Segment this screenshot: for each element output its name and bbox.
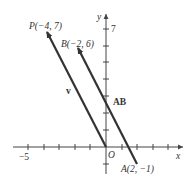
x-axis	[13, 144, 183, 150]
vector-ab-label: AB	[113, 97, 127, 107]
point-p-label: P(−4, 7)	[28, 21, 62, 32]
y-tick-label-7: 7	[111, 24, 116, 34]
coordinate-diagram: P(−4, 7) B(−2, 6) A(2, −1) O v AB x y −5…	[0, 0, 194, 182]
origin-label: O	[108, 150, 115, 160]
point-b-label: B(−2, 6)	[61, 39, 94, 50]
vector-v-label: v	[66, 86, 71, 96]
x-axis-label: x	[175, 151, 181, 161]
vector-v	[47, 32, 106, 147]
point-a-label: A(2, −1)	[120, 164, 154, 175]
x-tick-label-minus5: −5	[19, 152, 29, 162]
y-axis-label: y	[96, 12, 102, 22]
